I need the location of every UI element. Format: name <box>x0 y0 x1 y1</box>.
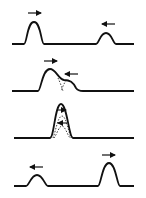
diagram-canvas <box>0 0 146 198</box>
panel-4-separated <box>14 155 134 186</box>
string-wave-1 <box>12 22 134 44</box>
panel-3-superposition <box>14 104 134 138</box>
panel-2-overlap <box>12 61 134 91</box>
panel-1-approach <box>12 13 134 44</box>
pulse-superposition-figure: Four-stage diagram of two pulses on a st… <box>0 0 146 198</box>
string-wave-3 <box>14 104 134 138</box>
string-wave-2 <box>12 69 134 91</box>
